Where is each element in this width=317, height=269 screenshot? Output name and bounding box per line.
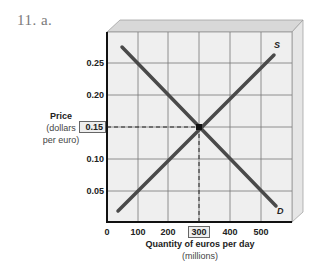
y-tick: 0.20 — [80, 90, 104, 100]
x-axis-sublabel: (millions) — [140, 251, 260, 261]
demand-label: D — [277, 206, 284, 216]
x-tick: 500 — [246, 227, 276, 237]
y-tick: 0.05 — [80, 186, 104, 196]
box-top-bevel — [107, 20, 303, 32]
box-right-bevel — [292, 20, 303, 222]
y-tick: 0.25 — [80, 58, 104, 68]
y-tick: 0.10 — [80, 154, 104, 164]
x-tick: 100 — [123, 227, 153, 237]
x-tick: 400 — [215, 227, 245, 237]
supply-label: S — [274, 40, 280, 50]
y-tick-highlighted: 0.15 — [79, 121, 106, 133]
x-tick: 0 — [92, 227, 122, 237]
equilibrium-point — [196, 124, 202, 130]
x-tick: 200 — [153, 227, 183, 237]
x-tick-highlighted: 300 — [184, 227, 214, 237]
x-axis-label: Quantity of euros per day — [140, 239, 260, 249]
